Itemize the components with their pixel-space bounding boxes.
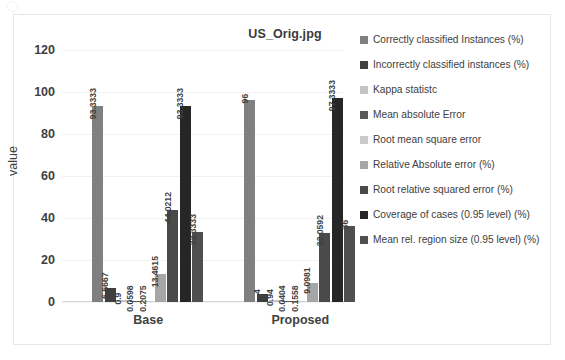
legend-item-label: Coverage of cases (0.95 level) (%) (373, 208, 530, 221)
legend-item-label: Root relative squared error (%) (373, 183, 513, 196)
legend-item[interactable]: Mean absolute Error (360, 108, 556, 121)
x-axis-category-label: Proposed (244, 313, 357, 327)
legend-item-label: Root mean square error (373, 133, 481, 146)
chart-legend: Correctly classified Instances (%)Incorr… (360, 33, 556, 258)
bar-slot: 0.94 (269, 50, 280, 302)
bar-value-label: 9.0981 (304, 268, 313, 294)
bar-slot: 36 (344, 50, 355, 302)
bar-slot: 13.4615 (155, 50, 166, 302)
legend-item[interactable]: Mean rel. region size (0.95 level) (%) (360, 233, 556, 246)
legend-item[interactable]: Root mean square error (360, 133, 556, 146)
chart-title: US_Orig.jpg (210, 27, 360, 41)
bar-slot: 6.6667 (105, 50, 116, 302)
legend-item-label: Kappa statistc (373, 83, 437, 96)
bar-value-label: 93.3333 (89, 88, 98, 119)
bar-value-label: 36 (341, 220, 350, 230)
gridline (62, 302, 344, 303)
bar-slot: 96 (244, 50, 255, 302)
legend-item[interactable]: Kappa statistc (360, 83, 556, 96)
legend-swatch-icon (360, 86, 368, 94)
y-axis-title: value (6, 146, 20, 176)
legend-item-label: Mean absolute Error (373, 108, 465, 121)
legend-swatch-icon (360, 61, 368, 69)
legend-swatch-icon (360, 36, 368, 44)
bar[interactable]: 9.0981 (307, 283, 318, 302)
bar-value-label: 6.6667 (102, 273, 111, 299)
y-axis-tick-label: 40 (41, 211, 55, 225)
legend-item[interactable]: Incorrectly classified instances (%) (360, 58, 556, 71)
bar-value-label: 33.3333 (189, 214, 198, 245)
bar-slot: 0.1558 (294, 50, 305, 302)
legend-swatch-icon (360, 111, 368, 119)
bar-value-label: 93.3333 (177, 88, 186, 119)
bar-value-label: 97.3333 (329, 80, 338, 111)
bar[interactable]: 33.0592 (319, 233, 330, 302)
bar[interactable]: 96 (244, 100, 255, 302)
bar-group: 93.33336.66670.90.05980.207513.461544.02… (92, 50, 205, 302)
bar-value-label: 0.0404 (279, 286, 288, 312)
bar-value-label: 0.94 (266, 290, 275, 307)
bar-value-label: 0.9 (114, 292, 123, 304)
bar-slot: 0.9 (117, 50, 128, 302)
legend-item-label: Mean rel. region size (0.95 level) (%) (373, 233, 539, 246)
bar-slot: 0.0598 (130, 50, 141, 302)
bar-value-label: 44.0212 (164, 192, 173, 223)
plot-area: 020406080100120 93.33336.66670.90.05980.… (62, 50, 344, 302)
bar-value-label: 13.4615 (152, 256, 161, 287)
bar[interactable]: 0.1558 (294, 301, 305, 302)
legend-item[interactable]: Coverage of cases (0.95 level) (%) (360, 208, 556, 221)
bar-slot: 0.0404 (282, 50, 293, 302)
y-axis-tick-label: 100 (34, 85, 55, 99)
legend-swatch-icon (360, 136, 368, 144)
bar-value-label: 0.1558 (291, 286, 300, 312)
legend-swatch-icon (360, 211, 368, 219)
y-axis-tick-label: 120 (34, 43, 55, 57)
legend-item-label: Correctly classified Instances (%) (373, 33, 524, 46)
bar[interactable]: 97.3333 (332, 98, 343, 302)
legend-item[interactable]: Root relative squared error (%) (360, 183, 556, 196)
bar-group: 9640.940.04040.15589.098133.059297.33333… (244, 50, 357, 302)
legend-swatch-icon (360, 236, 368, 244)
bar-slot: 93.3333 (180, 50, 191, 302)
bar-value-label: 4 (254, 289, 263, 294)
legend-swatch-icon (360, 161, 368, 169)
legend-item-label: Relative Absolute error (%) (373, 158, 495, 171)
y-axis-tick-label: 20 (41, 253, 55, 267)
bar[interactable]: 93.3333 (180, 106, 191, 302)
chart-container: US_Orig.jpg value 020406080100120 93.333… (0, 0, 565, 360)
x-axis-category-label: Base (92, 313, 205, 327)
bar-slot: 9.0981 (307, 50, 318, 302)
bar-value-label: 96 (241, 94, 250, 104)
y-axis-tick-label: 60 (41, 169, 55, 183)
bar-value-label: 33.0592 (316, 215, 325, 246)
bar-slot: 93.3333 (92, 50, 103, 302)
bar-slot: 4 (257, 50, 268, 302)
bar[interactable]: 0.2075 (142, 301, 153, 302)
bar-value-label: 0.0598 (127, 286, 136, 312)
y-axis-tick-label: 80 (41, 127, 55, 141)
legend-item[interactable]: Relative Absolute error (%) (360, 158, 556, 171)
y-axis-tick-label: 0 (48, 295, 55, 309)
bar-groups: 93.33336.66670.90.05980.207513.461544.02… (62, 50, 344, 302)
legend-swatch-icon (360, 186, 368, 194)
legend-item-label: Incorrectly classified instances (%) (373, 58, 529, 71)
bar[interactable]: 13.4615 (155, 274, 166, 302)
bar[interactable]: 33.3333 (192, 232, 203, 302)
corner-artifact (7, 1, 18, 12)
legend-item[interactable]: Correctly classified Instances (%) (360, 33, 556, 46)
bar-slot: 33.3333 (192, 50, 203, 302)
bar-value-label: 0.2075 (139, 286, 148, 312)
bar-slot: 97.3333 (332, 50, 343, 302)
bar[interactable]: 44.0212 (167, 210, 178, 302)
bar[interactable]: 36 (344, 226, 355, 302)
